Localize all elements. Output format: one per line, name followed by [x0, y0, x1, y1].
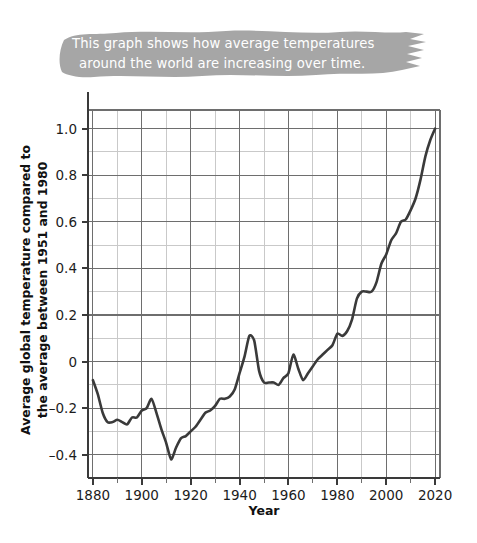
y-axis-title-line-2: the average between 1951 and 1980: [35, 161, 50, 418]
x-axis-tick-label: 1900: [125, 487, 159, 503]
y-axis-tick-label: 0.2: [56, 307, 77, 323]
y-axis-tick-label: 0: [68, 354, 77, 370]
x-axis-tick-label: 1980: [320, 487, 354, 503]
temperature-line-chart: –0.4–0.200.20.40.60.81.0 188019001920194…: [0, 0, 477, 543]
y-axis-tick-label: 0.4: [56, 260, 77, 276]
chart-page: This graph shows how average temperature…: [0, 0, 477, 543]
y-axis-tick-label: –0.2: [49, 400, 77, 416]
x-axis-tick-label: 1940: [222, 487, 256, 503]
y-axis-tick-label: 0.6: [56, 214, 77, 230]
x-axis-tick-label: 1960: [271, 487, 305, 503]
x-axis-tick-label: 1880: [76, 487, 110, 503]
grid-minor-lines: [88, 110, 440, 478]
y-axis-title-line-1: Average global temperature compared to: [18, 145, 33, 435]
y-axis-tick-label: –0.4: [49, 447, 77, 463]
x-axis-tick-label: 2000: [369, 487, 403, 503]
x-axis-tick-labels: 18801900192019401960198020002020: [76, 487, 453, 503]
y-axis-tick-labels: –0.4–0.200.20.40.60.81.0: [49, 121, 77, 463]
y-axis-tick-label: 1.0: [56, 121, 77, 137]
x-axis-tick-label: 2020: [418, 487, 452, 503]
x-axis-tick-label: 1920: [173, 487, 207, 503]
x-axis-title: Year: [248, 503, 281, 518]
y-axis-tick-label: 0.8: [56, 167, 77, 183]
